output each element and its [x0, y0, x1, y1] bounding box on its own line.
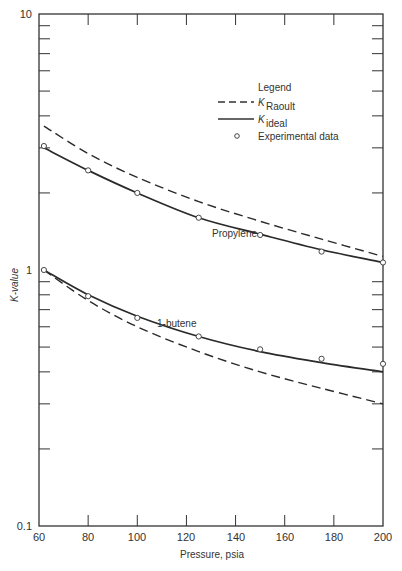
experimental-point	[86, 294, 91, 299]
x-tick-labels: 60 80 100 120 140 160 180 200	[33, 531, 392, 543]
x-axis-title: Pressure, psia	[180, 549, 244, 560]
legend-raoult-main: K	[258, 97, 266, 108]
legend-circle-marker-icon	[235, 134, 240, 139]
x-tick-120: 120	[177, 531, 195, 543]
y-tick-10: 10	[20, 8, 32, 20]
butene-raoult-curve	[44, 270, 383, 404]
legend-raoult-sub: Raoult	[266, 101, 295, 112]
experimental-point	[258, 347, 263, 352]
experimental-point	[319, 249, 324, 254]
propylene-label: Propylene	[212, 228, 257, 239]
1-butene-label: 1-butene	[157, 318, 197, 329]
experimental-point	[196, 334, 201, 339]
butene-ideal-curve	[44, 270, 383, 372]
experimental-point	[86, 168, 91, 173]
experimental-point	[258, 232, 263, 237]
x-tick-140: 140	[227, 531, 245, 543]
x-tick-160: 160	[276, 531, 294, 543]
experimental-point	[380, 260, 385, 265]
experimental-point	[135, 190, 140, 195]
x-tick-80: 80	[82, 531, 94, 543]
x-tick-100: 100	[128, 531, 146, 543]
legend-title: Legend	[258, 82, 291, 93]
axis-ticks	[39, 14, 383, 526]
x-tick-200: 200	[374, 531, 392, 543]
y-tick-0.1: 0.1	[17, 520, 32, 532]
experimental-point	[319, 356, 324, 361]
experimental-point	[41, 143, 46, 148]
legend: Legend K Raoult K ideal Experimental dat…	[218, 82, 339, 142]
legend-ideal-sub: ideal	[266, 118, 287, 129]
x-tick-60: 60	[33, 531, 45, 543]
legend-ideal-main: K	[258, 114, 266, 125]
plot-frame	[39, 14, 383, 526]
experimental-markers	[41, 143, 385, 366]
experimental-point	[380, 361, 385, 366]
curves	[44, 126, 383, 404]
k-value-chart: 10 1 0.1 60 80 100 120 140 160 180 200 P…	[0, 0, 402, 571]
experimental-point	[135, 315, 140, 320]
propylene-ideal-curve	[44, 148, 383, 263]
legend-experimental: Experimental data	[258, 131, 339, 142]
experimental-point	[196, 215, 201, 220]
x-tick-180: 180	[325, 531, 343, 543]
y-axis-title: K-value	[9, 268, 20, 302]
experimental-point	[41, 267, 46, 272]
y-tick-1: 1	[26, 264, 32, 276]
